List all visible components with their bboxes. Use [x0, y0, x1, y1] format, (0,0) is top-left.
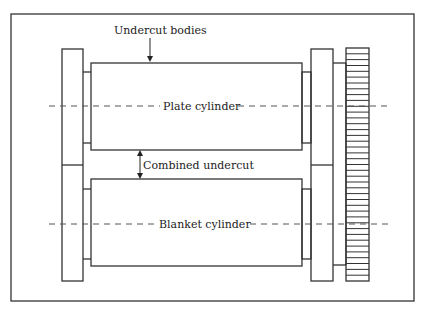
- gear-teeth: [346, 54, 369, 275]
- label-combined-undercut: Combined undercut: [143, 159, 254, 172]
- shaft: [333, 63, 346, 265]
- right-necks: [302, 72, 311, 259]
- left-necks: [83, 72, 91, 259]
- label-undercut-bodies: Undercut bodies: [114, 24, 207, 37]
- arrowhead-down-icon: [147, 56, 153, 62]
- arrowhead-down-icon: [137, 173, 143, 179]
- cylinder-diagram: Undercut bodies Plate cylinder Combined …: [0, 0, 436, 313]
- arrowhead-up-icon: [137, 150, 143, 156]
- right-bearer-bracket: [311, 49, 333, 281]
- left-bearer-bracket: [62, 49, 83, 281]
- label-plate-cylinder: Plate cylinder: [163, 100, 241, 113]
- label-blanket-cylinder: Blanket cylinder: [159, 218, 251, 231]
